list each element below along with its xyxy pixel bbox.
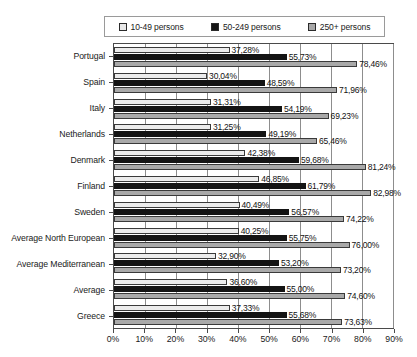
- bar-50-249-persons: [114, 286, 285, 292]
- bar-row: 71,96%: [114, 87, 393, 93]
- bar-value-label: 74,22%: [344, 214, 374, 224]
- bar-50-249-persons: [114, 209, 289, 215]
- bar-50-249-persons: [114, 312, 287, 318]
- bar-row: 69,23%: [114, 113, 393, 119]
- bar-250-persons: [114, 293, 345, 299]
- y-axis-ticks: [0, 43, 113, 329]
- bar-250-persons: [114, 242, 350, 248]
- bar-10-49-persons: [114, 99, 211, 105]
- bar-10-49-persons: [114, 150, 245, 156]
- bar-row: 49,19%: [114, 131, 393, 137]
- bar-group-finland: 46,85%61,79%82,98%: [114, 173, 393, 199]
- bar-group-portugal: 37,28%55,73%78,46%: [114, 44, 393, 70]
- bar-group-denmark: 42,38%59,68%81,24%: [114, 147, 393, 173]
- bar-group-sweden: 40,49%56,57%74,22%: [114, 199, 393, 225]
- bar-value-label: 73,63%: [342, 317, 372, 327]
- bar-250-persons: [114, 138, 317, 144]
- plot-area: 37,28%55,73%78,46%30,04%48,59%71,96%31,3…: [113, 43, 394, 329]
- bar-row: 36,60%: [114, 279, 393, 285]
- bar-group-italy: 31,31%54,19%69,23%: [114, 96, 393, 122]
- x-tick-label-0: 0%: [107, 334, 120, 344]
- bar-group-greece: 37,33%55,68%73,63%: [114, 302, 393, 328]
- bar-row: 31,31%: [114, 99, 393, 105]
- bar-250-persons: [114, 267, 341, 273]
- bar-50-249-persons: [114, 235, 287, 241]
- bar-row: 61,79%: [114, 183, 393, 189]
- x-tick-label-10: 10%: [136, 334, 153, 344]
- bar-value-label: 65,46%: [317, 136, 347, 146]
- bar-row: 37,28%: [114, 47, 393, 53]
- bar-value-label: 74,60%: [345, 291, 375, 301]
- bar-row: 37,33%: [114, 305, 393, 311]
- bar-50-249-persons: [114, 106, 282, 112]
- bar-10-49-persons: [114, 47, 230, 53]
- x-tick-label-40: 40%: [229, 334, 246, 344]
- bar-250-persons: [114, 164, 366, 170]
- bar-10-49-persons: [114, 305, 230, 311]
- bar-250-persons: [114, 61, 357, 67]
- legend-item-50-249: 50-249 persons: [211, 22, 281, 32]
- bar-50-249-persons: [114, 54, 287, 60]
- bar-50-249-persons: [114, 260, 279, 266]
- bar-value-label: 76,00%: [350, 240, 380, 250]
- x-tick-label-20: 20%: [167, 334, 184, 344]
- x-tick-30: [207, 329, 208, 333]
- bar-50-249-persons: [114, 80, 265, 86]
- x-tick-90: [394, 329, 395, 333]
- bar-50-249-persons: [114, 157, 299, 163]
- bar-row: 40,49%: [114, 202, 393, 208]
- x-tick-label-30: 30%: [198, 334, 215, 344]
- x-tick-50: [269, 329, 270, 333]
- bar-row: 78,46%: [114, 61, 393, 67]
- bar-10-49-persons: [114, 279, 227, 285]
- bar-10-49-persons: [114, 73, 207, 79]
- bar-group-average-north-european: 40,25%55,75%76,00%: [114, 225, 393, 251]
- bar-group-average: 36,60%55,00%74,60%: [114, 276, 393, 302]
- x-tick-10: [144, 329, 145, 333]
- legend-label-250-plus: 250+ persons: [320, 22, 371, 32]
- bar-row: 55,73%: [114, 54, 393, 60]
- bar-250-persons: [114, 113, 329, 119]
- bar-250-persons: [114, 216, 344, 222]
- bar-10-49-persons: [114, 253, 216, 259]
- bar-row: 42,38%: [114, 150, 393, 156]
- bar-value-label: 78,46%: [357, 59, 387, 69]
- x-tick-60: [300, 329, 301, 333]
- gridline-90: [393, 44, 394, 328]
- bar-groups: 37,28%55,73%78,46%30,04%48,59%71,96%31,3…: [114, 44, 393, 328]
- legend-swatch-light-icon: [119, 23, 127, 31]
- x-tick-70: [332, 329, 333, 333]
- bar-group-average-mediterranean: 32,90%53,20%73,20%: [114, 251, 393, 277]
- bar-row: 30,04%: [114, 73, 393, 79]
- legend-label-10-49: 10-49 persons: [131, 22, 184, 32]
- x-axis-labels: 0%10%20%30%40%50%60%70%80%90%: [113, 334, 394, 348]
- x-tick-20: [175, 329, 176, 333]
- x-tick-40: [238, 329, 239, 333]
- bar-value-label: 73,20%: [341, 265, 371, 275]
- bar-group-spain: 30,04%48,59%71,96%: [114, 70, 393, 96]
- x-tick-label-60: 60%: [292, 334, 309, 344]
- bar-row: 76,00%: [114, 242, 393, 248]
- bar-250-persons: [114, 87, 337, 93]
- legend-label-50-249: 50-249 persons: [223, 22, 281, 32]
- bar-row: 74,22%: [114, 216, 393, 222]
- bar-10-49-persons: [114, 228, 239, 234]
- x-tick-label-50: 50%: [260, 334, 277, 344]
- bar-250-persons: [114, 319, 342, 325]
- bar-10-49-persons: [114, 124, 211, 130]
- legend-swatch-dark-icon: [211, 23, 219, 31]
- bar-row: 40,25%: [114, 228, 393, 234]
- bar-row: 59,68%: [114, 157, 393, 163]
- legend-swatch-mid-icon: [308, 23, 316, 31]
- bar-50-249-persons: [114, 131, 266, 137]
- bar-row: 46,85%: [114, 176, 393, 182]
- legend-item-250-plus: 250+ persons: [308, 22, 371, 32]
- bar-row: 81,24%: [114, 164, 393, 170]
- chart-legend: 10-49 persons 50-249 persons 250+ person…: [104, 16, 385, 37]
- bar-row: 73,20%: [114, 267, 393, 273]
- x-tick-label-80: 80%: [354, 334, 371, 344]
- legend-item-10-49: 10-49 persons: [119, 22, 184, 32]
- bar-value-label: 69,23%: [329, 111, 359, 121]
- x-tick-0: [113, 329, 114, 333]
- bar-250-persons: [114, 190, 371, 196]
